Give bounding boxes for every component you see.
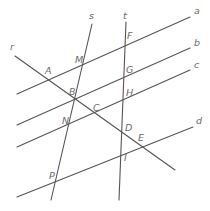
line-a (17, 17, 190, 94)
point-label-A: A (44, 65, 52, 76)
parallel-lines-transversals-diagram: abcdrst AMFBGCHNDEIP (0, 0, 210, 211)
line-b (17, 48, 190, 125)
point-label-P: P (49, 170, 55, 181)
line-c (17, 70, 190, 147)
point-label-D: D (125, 122, 132, 133)
line-label-b: b (194, 37, 200, 48)
line-label-c: c (194, 59, 200, 70)
line-label-d: d (196, 115, 203, 126)
point-label-F: F (127, 30, 133, 41)
point-label-I: I (124, 152, 127, 163)
point-label-M: M (75, 54, 83, 65)
point-label-G: G (126, 64, 133, 75)
line-labels-group: abcdrst (10, 5, 203, 126)
point-labels-group: AMFBGCHNDEIP (44, 30, 144, 181)
point-label-N: N (62, 115, 69, 126)
line-s (51, 24, 92, 200)
line-label-s: s (89, 10, 94, 21)
point-label-E: E (138, 132, 144, 143)
point-label-C: C (93, 102, 100, 113)
line-r (15, 56, 175, 170)
point-label-H: H (126, 87, 133, 98)
line-label-a: a (194, 5, 200, 16)
lines-group (15, 17, 193, 200)
point-label-B: B (69, 86, 76, 97)
line-label-r: r (10, 41, 15, 52)
line-d (17, 127, 193, 197)
line-label-t: t (123, 10, 128, 21)
